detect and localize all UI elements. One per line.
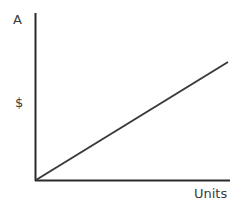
chart-plot [0,0,242,206]
data-line [36,62,228,180]
chart: A $ Units [0,0,242,206]
x-axis-label: Units [194,187,227,200]
corner-label: A [13,13,22,26]
y-axis-label: $ [15,96,23,109]
